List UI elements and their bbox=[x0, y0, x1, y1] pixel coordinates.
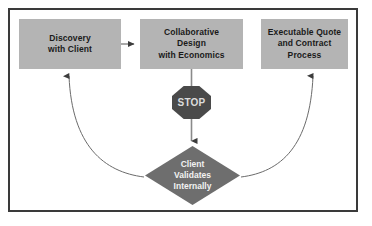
process-box-collaborative-design-label: Collaborative Design with Economics bbox=[155, 27, 227, 62]
decision-diamond-label: Client Validates Internally bbox=[145, 146, 240, 205]
stop-sign-label: STOP bbox=[178, 97, 206, 108]
process-box-discovery-label: Discovery with Client bbox=[45, 33, 95, 56]
diagram-canvas: Discovery with Client Collaborative Desi… bbox=[0, 0, 372, 226]
process-box-discovery[interactable]: Discovery with Client bbox=[19, 19, 121, 69]
process-box-collaborative-design[interactable]: Collaborative Design with Economics bbox=[140, 19, 243, 69]
decision-diamond-client-validates[interactable]: Client Validates Internally bbox=[145, 146, 240, 205]
process-box-executable-quote-label: Executable Quote and Contract Process bbox=[265, 27, 344, 62]
stop-sign-octagon[interactable]: STOP bbox=[172, 86, 211, 119]
process-box-executable-quote[interactable]: Executable Quote and Contract Process bbox=[261, 19, 348, 69]
